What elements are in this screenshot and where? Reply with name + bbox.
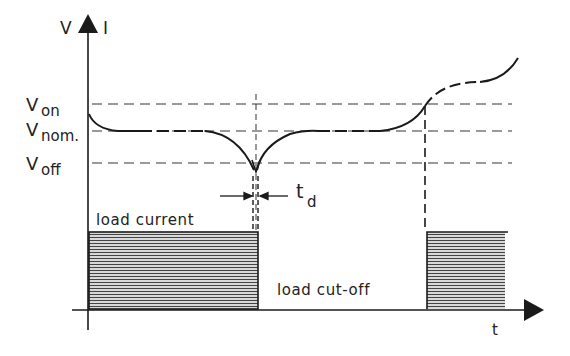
label-voff: V off [26, 153, 61, 179]
x-axis-label-t: t [492, 321, 498, 339]
y-axis-label-i: I [103, 18, 108, 38]
y-axis-label-v: V [60, 18, 72, 38]
svg-text:off: off [41, 161, 61, 179]
svg-text:t: t [296, 180, 303, 202]
svg-text:nom.: nom. [41, 127, 79, 145]
voltage-curve [89, 58, 518, 172]
svg-text:on: on [41, 102, 60, 120]
td-dimension-arrows [220, 193, 288, 200]
label-load-cutoff: load cut-off [277, 281, 370, 299]
y-axis-arrow-icon [78, 14, 98, 33]
svg-text:V: V [26, 119, 39, 140]
label-load-current: load current [96, 211, 194, 229]
svg-text:d: d [307, 193, 317, 211]
load-current-pulse-2 [427, 232, 505, 309]
voltage-current-timing-diagram: V I t V on V nom. V off t d load current… [0, 0, 570, 356]
x-axis-arrow-icon [524, 299, 544, 321]
svg-text:V: V [26, 153, 39, 174]
label-vnom: V nom. [26, 119, 79, 145]
label-td: t d [296, 180, 317, 211]
label-von: V on [26, 94, 60, 120]
svg-text:V: V [26, 94, 39, 115]
load-current-pulse-1 [89, 232, 258, 309]
